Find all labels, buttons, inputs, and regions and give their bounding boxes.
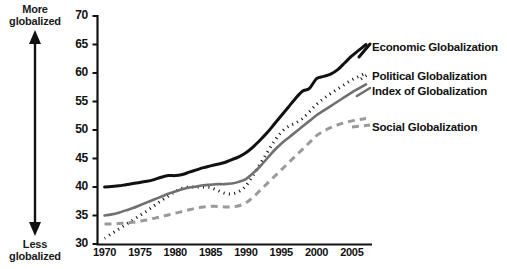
y-axis-tick-label: 45 [62, 151, 88, 165]
y-axis-tick-label: 70 [62, 8, 88, 22]
y-axis-tick-label: 65 [62, 37, 88, 51]
series-line-political-globalization [105, 73, 366, 238]
x-axis-tick-label: 1970 [85, 246, 125, 258]
globalization-line-chart: More globalized Less globalized [0, 0, 507, 269]
y-axis-tick-label: 40 [62, 179, 88, 193]
x-axis-tick-label: 1990 [226, 246, 266, 258]
x-axis-tick-label: 1985 [191, 246, 231, 258]
y-axis-tick-label: 55 [62, 94, 88, 108]
legend-swatch-social-globalization [352, 125, 370, 127]
chart-series-layer [105, 45, 366, 239]
legend-label-social-globalization: Social Globalization [372, 121, 477, 133]
chart-axes [93, 15, 373, 245]
x-axis-tick-label: 2000 [297, 246, 337, 258]
x-axis-tick-label: 2005 [332, 246, 372, 258]
legend-label-economic-globalization: Economic Globalization [372, 41, 498, 53]
series-line-social-globalization [105, 119, 366, 224]
legend-label-index-of-globalization: Index of Globalization [372, 85, 487, 97]
series-line-index-of-globalization [105, 84, 366, 215]
y-axis-tick-label: 50 [62, 122, 88, 136]
x-axis-tick-label: 1995 [261, 246, 301, 258]
y-axis-tick-label: 60 [62, 65, 88, 79]
series-line-economic-globalization [105, 45, 366, 188]
x-axis-tick-label: 1980 [155, 246, 195, 258]
legend-leader-lines [352, 44, 370, 127]
x-axis-tick-label: 1975 [120, 246, 160, 258]
y-axis-tick-label: 35 [62, 208, 88, 222]
legend-label-political-globalization: Political Globalization [372, 70, 487, 82]
